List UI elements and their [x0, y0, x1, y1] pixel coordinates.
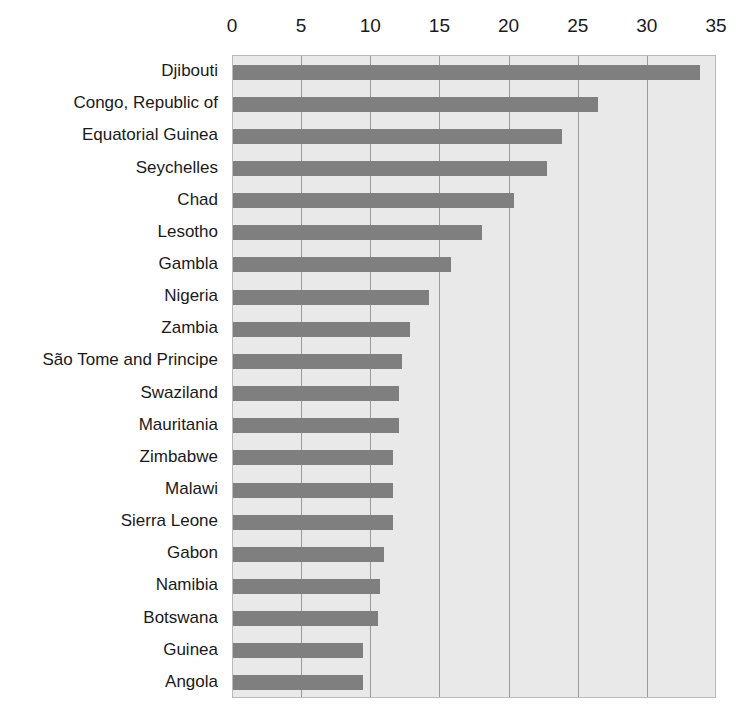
- gridline: [509, 56, 510, 697]
- category-label: Nigeria: [164, 286, 218, 306]
- bar: [233, 643, 363, 658]
- x-tick-label: 0: [227, 14, 238, 38]
- x-tick-label: 25: [567, 14, 588, 38]
- category-label: Mauritania: [139, 415, 218, 435]
- category-label: Botswana: [143, 608, 218, 628]
- plot-area: [232, 55, 716, 698]
- x-tick-label: 30: [636, 14, 657, 38]
- category-label: Namibia: [156, 575, 218, 595]
- category-label: Lesotho: [158, 222, 219, 242]
- bar: [233, 418, 399, 433]
- category-label: Chad: [177, 190, 218, 210]
- bar: [233, 225, 482, 240]
- category-label: Angola: [165, 672, 218, 692]
- x-axis-tick-labels: 05101520253035: [0, 14, 746, 44]
- bar: [233, 129, 562, 144]
- x-tick-label: 15: [429, 14, 450, 38]
- category-label: Malawi: [165, 479, 218, 499]
- category-label: Djibouti: [161, 61, 218, 81]
- bar: [233, 354, 402, 369]
- bar: [233, 450, 393, 465]
- category-label: Seychelles: [136, 158, 218, 178]
- category-label: São Tome and Principe: [43, 350, 218, 370]
- bar: [233, 611, 378, 626]
- bar: [233, 257, 451, 272]
- chart-page: 05101520253035 DjiboutiCongo, Republic o…: [0, 0, 746, 720]
- gridline: [301, 56, 302, 697]
- gridline: [578, 56, 579, 697]
- bar: [233, 161, 547, 176]
- category-axis-labels: DjiboutiCongo, Republic ofEquatorial Gui…: [0, 55, 226, 698]
- category-label: Gabon: [167, 543, 218, 563]
- x-tick-label: 35: [705, 14, 726, 38]
- bar: [233, 193, 514, 208]
- bar: [233, 290, 429, 305]
- bar: [233, 515, 393, 530]
- gridline: [370, 56, 371, 697]
- bar: [233, 97, 598, 112]
- x-tick-label: 10: [360, 14, 381, 38]
- category-label: Equatorial Guinea: [82, 125, 218, 145]
- bar: [233, 322, 410, 337]
- category-label: Sierra Leone: [121, 511, 218, 531]
- category-label: Swaziland: [141, 383, 219, 403]
- bar: [233, 483, 393, 498]
- bar: [233, 65, 700, 80]
- bar: [233, 579, 380, 594]
- x-tick-label: 20: [498, 14, 519, 38]
- bar: [233, 675, 363, 690]
- category-label: Gambla: [158, 254, 218, 274]
- bar: [233, 547, 384, 562]
- category-label: Zimbabwe: [140, 447, 218, 467]
- gridline: [647, 56, 648, 697]
- bar: [233, 386, 399, 401]
- category-label: Congo, Republic of: [73, 93, 218, 113]
- x-tick-label: 5: [296, 14, 307, 38]
- gridline: [439, 56, 440, 697]
- category-label: Guinea: [163, 640, 218, 660]
- category-label: Zambia: [161, 318, 218, 338]
